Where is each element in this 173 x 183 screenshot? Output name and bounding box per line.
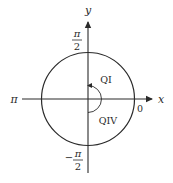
svg-text:π: π (73, 28, 81, 39)
svg-text:−: − (65, 152, 73, 163)
label-neg-pi-over-2: − π 2 (65, 148, 83, 172)
label-zero: 0 (137, 103, 143, 114)
y-axis-label: y (84, 4, 92, 17)
label-quadrant-iv: QIV (99, 115, 118, 126)
svg-text:π: π (74, 148, 82, 159)
label-pi: π (9, 93, 18, 106)
x-axis-label: x (158, 93, 165, 106)
unit-circle-diagram: y x π 2 − π 2 π 0 QI QIV (0, 0, 173, 183)
label-quadrant-i: QI (100, 74, 112, 85)
label-pi-over-2: π 2 (72, 28, 82, 52)
svg-text:2: 2 (75, 161, 81, 172)
svg-text:2: 2 (74, 41, 80, 52)
